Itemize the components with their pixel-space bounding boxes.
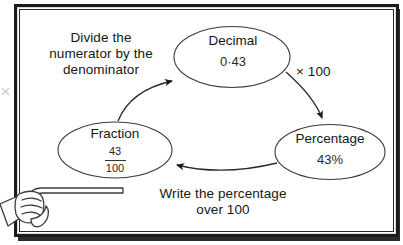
fraction-node-title: Fraction (57, 126, 173, 141)
fraction-divider-bar (105, 160, 126, 161)
instruction-divide-text: Divide the numerator by the denominator (34, 30, 168, 78)
percentage-node-value: 43% (272, 152, 388, 167)
hand-holding-pointer-icon (0, 188, 123, 227)
fraction-denominator: 100 (103, 162, 127, 175)
instruction-write-over-100-text: Write the percentage over 100 (133, 186, 313, 218)
fraction-numerator: 43 (106, 146, 124, 159)
decimal-node-title: Decimal (175, 33, 291, 48)
instruction-times-100-text: × 100 (296, 64, 366, 80)
fraction-node-value: 43 100 (57, 146, 173, 174)
percentage-node-title: Percentage (272, 131, 388, 146)
whiteboard-scene: Divide the numerator by the denominator … (0, 0, 403, 245)
decimal-node-value: 0·43 (175, 54, 291, 69)
